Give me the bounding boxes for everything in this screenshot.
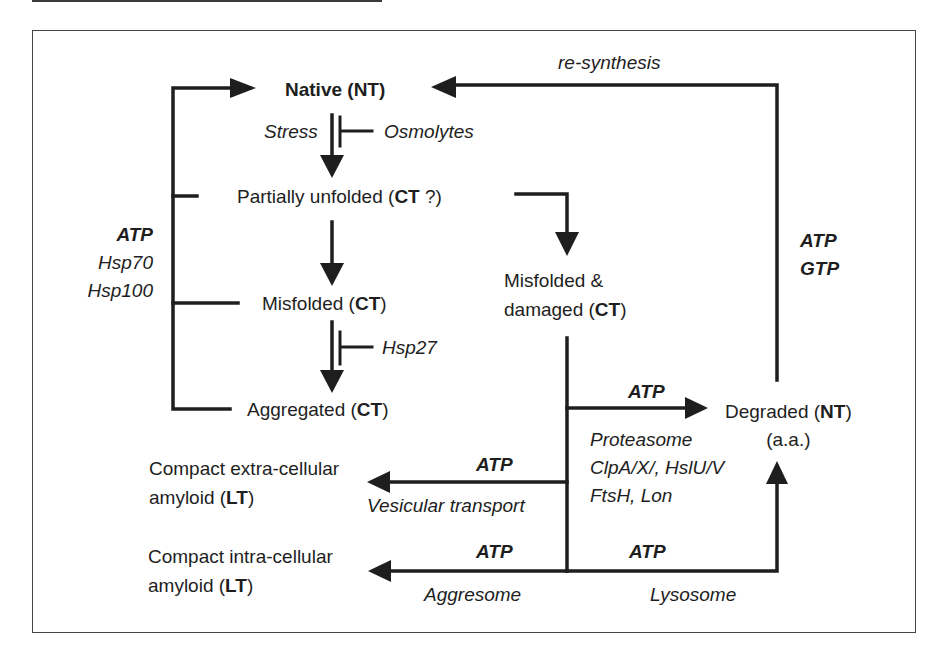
state-label-line2: amyloid (LT) [148,571,333,600]
state-label: Degraded [725,401,808,422]
state-degraded: Degraded (NT) (a.a.) [725,398,852,454]
aggresome-label: Aggresome [424,584,521,606]
state-label: damaged [504,299,583,320]
paren: ) [379,79,385,100]
protease-label: ClpA/X/, HslU/V [590,454,724,482]
state-label: Misfolded & [504,266,627,295]
timescale-tag: CT [595,299,620,320]
refolding-chaperones: ATP Hsp70 Hsp100 [70,221,153,305]
timescale-tag: CT [357,399,382,420]
amino-acids-label: (a.a.) [725,426,852,454]
state-label: amyloid [149,487,214,508]
state-label: Compact intra-cellular [148,542,333,571]
state-label: Native [285,79,342,100]
chaperone-label: Hsp100 [70,277,153,305]
state-label: Partially unfolded [237,186,383,207]
proteasome-proteases: Proteasome ClpA/X/, HslU/V FtsH, Lon [590,426,724,510]
resynthesis-label: re-synthesis [558,52,660,74]
lysosome-label: Lysosome [650,584,736,606]
chaperone-bracket [173,88,238,409]
lysosome-energy: ATP [629,541,666,563]
degraded-line1: Degraded (NT) [725,398,852,426]
state-label: Aggregated [247,399,345,420]
state-intracellular-amyloid: Compact intra-cellular amyloid (LT) [148,542,333,600]
state-misfolded: Misfolded (CT) [262,293,387,315]
state-extracellular-amyloid: Compact extra-cellular amyloid (LT) [149,454,339,512]
stress-label: Stress [264,121,318,143]
state-aggregated: Aggregated (CT) [247,399,389,421]
paren: ) [845,401,851,422]
energy-label: ATP [800,227,839,255]
timescale-tag: NT [820,401,845,422]
timescale-tag: NT [354,79,379,100]
state-label: amyloid [148,575,213,596]
pathway-arrows [0,0,947,665]
paren: ) [620,299,626,320]
aggresome-energy: ATP [476,541,513,563]
energy-label: GTP [800,255,839,283]
protease-label: FtsH, Lon [590,482,724,510]
state-label: Misfolded [262,293,343,314]
chaperone-label: Hsp70 [70,249,153,277]
paren: ) [436,186,442,207]
state-partially-unfolded: Partially unfolded (CT ?) [237,186,442,208]
arrowhead-resynthesis [431,76,456,98]
timescale-tag: CT [394,186,419,207]
paren: ) [382,399,388,420]
energy-label: ATP [70,221,153,249]
state-label: Compact extra-cellular [149,454,339,483]
state-label-line2: amyloid (LT) [149,483,339,512]
paren: ) [248,487,254,508]
timescale-tag: LT [225,575,247,596]
vesicular-transport-label: Vesicular transport [367,495,525,517]
vesicular-energy: ATP [476,454,513,476]
paren: ) [247,575,253,596]
timescale-tag: CT [355,293,380,314]
paren: ) [380,293,386,314]
proteasome-energy: ATP [628,381,665,403]
protease-label: Proteasome [590,426,724,454]
state-native: Native (NT) [285,79,385,101]
osmolytes-label: Osmolytes [384,121,474,143]
resynthesis-energy: ATP GTP [800,227,839,283]
arrowhead-to-native [230,78,256,98]
hsp27-label: Hsp27 [382,337,437,359]
state-label-line2: damaged (CT) [504,295,627,324]
uncertainty-mark: ? [420,186,436,207]
timescale-tag: LT [226,487,248,508]
state-misfolded-damaged: Misfolded & damaged (CT) [504,266,627,324]
